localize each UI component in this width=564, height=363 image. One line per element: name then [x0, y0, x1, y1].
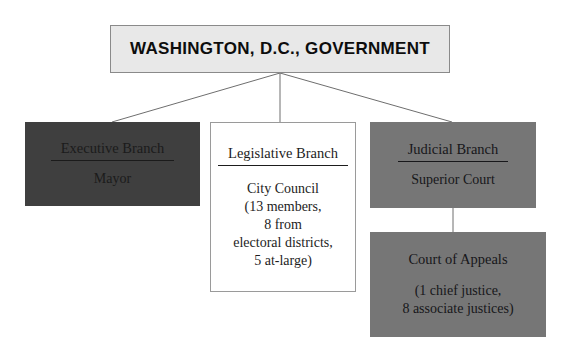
judicial-branch-body: Superior Court: [411, 171, 495, 189]
node-court-of-appeals: Court of Appeals (1 chief justice, 8 ass…: [370, 232, 546, 337]
court-of-appeals-body: (1 chief justice, 8 associate justices): [402, 282, 513, 318]
legislative-branch-title: Legislative Branch: [218, 145, 348, 166]
court-of-appeals-title: Court of Appeals: [408, 251, 507, 271]
judicial-branch-title: Judicial Branch: [398, 141, 509, 162]
edge-root-to-executive: [112, 73, 280, 122]
node-washington-dc-government: WASHINGTON, D.C., GOVERNMENT: [110, 25, 450, 73]
node-executive-branch: Executive Branch Mayor: [25, 122, 200, 206]
executive-branch-body: Mayor: [94, 170, 131, 188]
org-chart: WASHINGTON, D.C., GOVERNMENT Executive B…: [0, 0, 564, 363]
node-legislative-branch: Legislative Branch City Council (13 memb…: [210, 122, 356, 292]
node-judicial-branch: Judicial Branch Superior Court: [370, 122, 536, 208]
edge-root-to-judicial: [280, 73, 452, 122]
legislative-branch-body: City Council (13 members, 8 from elector…: [233, 180, 333, 270]
executive-branch-title: Executive Branch: [51, 140, 174, 161]
root-title: WASHINGTON, D.C., GOVERNMENT: [130, 39, 430, 59]
